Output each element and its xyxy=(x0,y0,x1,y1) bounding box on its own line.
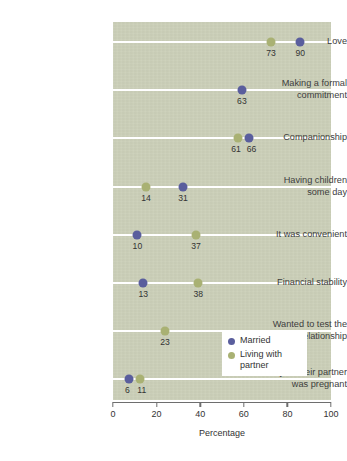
data-point-pregnant-cohabiting[interactable] xyxy=(135,375,144,384)
value-label-companionship-cohabiting: 61 xyxy=(231,144,241,154)
legend-label-married: Married xyxy=(240,335,271,346)
category-label-children: Having children some day xyxy=(237,175,347,198)
value-label-pregnant-married: 6 xyxy=(125,385,130,395)
x-tick-label-80: 80 xyxy=(282,409,292,419)
value-label-pregnant-cohabiting: 11 xyxy=(137,385,146,395)
category-label-convenient: It was convenient xyxy=(237,229,347,241)
category-label-companionship: Companionship xyxy=(237,132,347,144)
value-label-financial-cohabiting: 38 xyxy=(194,289,204,299)
x-tick-0 xyxy=(112,402,113,407)
x-tick-40 xyxy=(199,402,200,407)
data-point-children-married[interactable] xyxy=(179,183,188,192)
data-point-love-married[interactable] xyxy=(296,38,305,47)
x-tick-label-0: 0 xyxy=(110,409,115,419)
data-point-test-cohabiting[interactable] xyxy=(161,327,170,336)
data-point-companionship-cohabiting[interactable] xyxy=(233,134,242,143)
data-point-companionship-married[interactable] xyxy=(244,134,253,143)
data-point-commitment-married[interactable] xyxy=(237,86,246,95)
x-tick-80 xyxy=(287,402,288,407)
x-axis-title: Percentage xyxy=(113,428,331,438)
category-label-financial: Financial stability xyxy=(237,277,347,289)
value-label-convenient-married: 10 xyxy=(133,241,143,251)
x-tick-100 xyxy=(330,402,331,407)
legend-swatch-cohabiting-icon xyxy=(228,352,235,359)
x-tick-60 xyxy=(243,402,244,407)
legend-swatch-married-icon xyxy=(228,338,235,345)
value-label-companionship-married: 66 xyxy=(247,144,257,154)
legend-label-living-with-partner: Living with partner xyxy=(240,349,300,371)
x-tick-label-20: 20 xyxy=(152,409,162,419)
legend-item-living-with-partner[interactable]: Living with partner xyxy=(228,349,300,371)
x-tick-label-100: 100 xyxy=(323,409,338,419)
category-label-love: Love xyxy=(237,36,347,48)
value-label-financial-married: 13 xyxy=(139,289,149,299)
value-label-children-married: 31 xyxy=(178,193,188,203)
value-label-convenient-cohabiting: 37 xyxy=(191,241,201,251)
data-point-children-cohabiting[interactable] xyxy=(142,183,151,192)
value-label-children-cohabiting: 14 xyxy=(141,193,151,203)
value-label-love-cohabiting: 73 xyxy=(266,48,276,58)
legend: Married Living with partner xyxy=(222,330,307,376)
value-label-commitment-married: 63 xyxy=(237,96,247,106)
data-point-love-cohabiting[interactable] xyxy=(267,38,276,47)
data-point-convenient-married[interactable] xyxy=(133,231,142,240)
data-point-convenient-cohabiting[interactable] xyxy=(192,231,201,240)
value-label-love-married: 90 xyxy=(295,48,305,58)
data-point-financial-cohabiting[interactable] xyxy=(194,279,203,288)
dot-plot-figure: Love Making a formal commitment Companio… xyxy=(0,0,347,461)
x-tick-label-40: 40 xyxy=(195,409,205,419)
value-label-test-cohabiting: 23 xyxy=(160,337,170,347)
x-tick-20 xyxy=(156,402,157,407)
data-point-financial-married[interactable] xyxy=(139,279,148,288)
category-label-commitment: Making a formal commitment xyxy=(237,78,347,101)
legend-item-married[interactable]: Married xyxy=(228,335,300,346)
data-point-pregnant-married[interactable] xyxy=(124,375,133,384)
x-axis-line xyxy=(113,402,331,403)
x-tick-label-60: 60 xyxy=(239,409,249,419)
